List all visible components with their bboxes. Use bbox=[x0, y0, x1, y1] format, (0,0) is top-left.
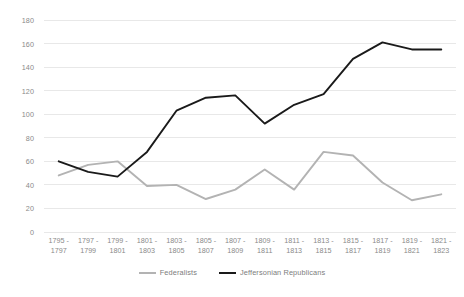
x-axis-tick-line: 1799 - bbox=[107, 236, 127, 246]
y-axis-tick-label: 160 bbox=[22, 39, 34, 48]
x-axis-tick-line: 1803 bbox=[137, 246, 157, 256]
x-axis-tick-label: 1797 -1799 bbox=[78, 236, 98, 256]
y-axis-tick-label: 0 bbox=[30, 228, 34, 237]
x-axis-tick-label: 1813 -1815 bbox=[313, 236, 333, 256]
x-axis-tick-label: 1799 -1801 bbox=[107, 236, 127, 256]
x-axis-tick-line: 1811 - bbox=[284, 236, 304, 246]
x-axis-tick-label: 1795 -1797 bbox=[49, 236, 69, 256]
legend-item[interactable]: Federalists bbox=[139, 268, 197, 277]
x-axis-tick-label: 1817 -1819 bbox=[372, 236, 392, 256]
legend-line-swatch-icon bbox=[219, 272, 236, 274]
series-lines bbox=[44, 20, 456, 232]
y-axis: 020406080100120140160180 bbox=[0, 20, 40, 232]
y-axis-tick-label: 180 bbox=[22, 16, 34, 25]
line-chart: 020406080100120140160180 1795 -17971797 … bbox=[0, 0, 464, 297]
x-axis-tick-label: 1815 -1817 bbox=[343, 236, 363, 256]
x-axis-tick-label: 1819 -1821 bbox=[402, 236, 422, 256]
x-axis-tick-line: 1797 - bbox=[78, 236, 98, 246]
x-axis-tick-line: 1809 bbox=[225, 246, 245, 256]
legend-item[interactable]: Jeffersonian Republicans bbox=[219, 268, 325, 277]
x-axis-tick-line: 1801 bbox=[107, 246, 127, 256]
x-axis: 1795 -17971797 -17991799 -18011801 -1803… bbox=[44, 236, 456, 262]
x-axis-tick-label: 1807 -1809 bbox=[225, 236, 245, 256]
y-axis-tick-label: 100 bbox=[22, 110, 34, 119]
y-axis-tick-label: 60 bbox=[26, 157, 34, 166]
x-axis-tick-label: 1811 -1813 bbox=[284, 236, 304, 256]
plot-area bbox=[44, 20, 456, 232]
y-axis-tick-label: 140 bbox=[22, 63, 34, 72]
y-axis-tick-label: 80 bbox=[26, 133, 34, 142]
x-axis-tick-line: 1811 bbox=[255, 246, 275, 256]
x-axis-tick-line: 1819 bbox=[372, 246, 392, 256]
x-axis-tick-line: 1797 bbox=[49, 246, 69, 256]
chart-legend: FederalistsJeffersonian Republicans bbox=[0, 268, 464, 277]
x-axis-tick-line: 1817 - bbox=[372, 236, 392, 246]
x-axis-tick-line: 1805 bbox=[166, 246, 186, 256]
x-axis-tick-label: 1801 -1803 bbox=[137, 236, 157, 256]
x-axis-tick-line: 1801 - bbox=[137, 236, 157, 246]
x-axis-tick-line: 1813 bbox=[284, 246, 304, 256]
x-axis-tick-label: 1803 -1805 bbox=[166, 236, 186, 256]
legend-label: Jeffersonian Republicans bbox=[240, 268, 325, 277]
x-axis-tick-label: 1805 -1807 bbox=[196, 236, 216, 256]
x-axis-tick-line: 1817 bbox=[343, 246, 363, 256]
x-axis-tick-line: 1823 bbox=[431, 246, 451, 256]
series-line-jeffersonian-republicans bbox=[59, 42, 442, 176]
x-axis-tick-line: 1807 - bbox=[225, 236, 245, 246]
x-axis-tick-line: 1815 - bbox=[343, 236, 363, 246]
legend-line-swatch-icon bbox=[139, 272, 156, 274]
y-axis-tick-label: 20 bbox=[26, 204, 34, 213]
x-axis-tick-line: 1821 - bbox=[431, 236, 451, 246]
x-axis-tick-line: 1815 bbox=[313, 246, 333, 256]
x-axis-tick-line: 1813 - bbox=[313, 236, 333, 246]
x-axis-tick-line: 1819 - bbox=[402, 236, 422, 246]
x-axis-tick-line: 1807 bbox=[196, 246, 216, 256]
x-axis-tick-line: 1795 - bbox=[49, 236, 69, 246]
legend-label: Federalists bbox=[160, 268, 197, 277]
y-axis-tick-label: 40 bbox=[26, 180, 34, 189]
x-axis-tick-line: 1809 - bbox=[255, 236, 275, 246]
x-axis-tick-line: 1799 bbox=[78, 246, 98, 256]
x-axis-tick-line: 1803 - bbox=[166, 236, 186, 246]
x-axis-tick-label: 1809 -1811 bbox=[255, 236, 275, 256]
y-axis-tick-label: 120 bbox=[22, 86, 34, 95]
x-axis-tick-line: 1821 bbox=[402, 246, 422, 256]
x-axis-tick-line: 1805 - bbox=[196, 236, 216, 246]
x-axis-tick-label: 1821 -1823 bbox=[431, 236, 451, 256]
